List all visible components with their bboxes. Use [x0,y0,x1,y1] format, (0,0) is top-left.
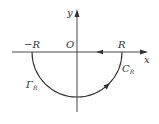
pos-r-label: R [117,39,126,50]
contour-diagram: y x O −R R CR ΓR [0,0,159,124]
c-r-label: CR [122,63,135,75]
y-axis-arrow-icon [75,9,80,17]
origin-label: O [66,39,74,50]
arc-direction-arrow-icon [104,83,111,90]
segment-direction-arrow-icon [96,50,103,54]
gamma-r-label: ΓR [25,79,38,91]
neg-r-label: −R [24,39,40,50]
x-axis-label: x [144,54,150,65]
y-axis-label: y [66,7,73,18]
